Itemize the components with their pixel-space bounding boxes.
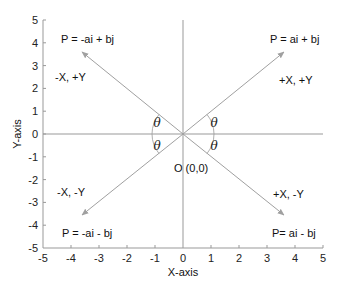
theta-label-q1: θ — [210, 116, 218, 130]
theta-label-q2: θ — [153, 116, 161, 130]
vector-q3 — [82, 134, 183, 215]
coordinate-diagram: 5 4 3 2 1 0 -1 -2 -3 -4 -5 -5 -4 -3 -2 -… — [0, 0, 344, 291]
y-tick-label: 0 — [32, 128, 38, 140]
y-tick-label: 5 — [32, 14, 38, 26]
x-tick-label: -1 — [150, 252, 160, 264]
theta-label-q4: θ — [210, 139, 218, 153]
y-axis-tick-labels: 5 4 3 2 1 0 -1 -2 -3 -4 -5 — [28, 14, 38, 254]
x-tick-label: 2 — [236, 252, 242, 264]
y-tick-label: -3 — [28, 196, 38, 208]
x-tick-label: -2 — [122, 252, 132, 264]
theta-label-q3: θ — [153, 139, 161, 153]
vector-q2 — [82, 52, 183, 134]
x-tick-label: -3 — [94, 252, 104, 264]
y-tick-label: -1 — [28, 151, 38, 163]
y-tick-label: -4 — [28, 219, 38, 231]
x-tick-label: -5 — [38, 252, 48, 264]
y-axis-title: Y-axis — [11, 119, 23, 149]
x-axis-title: X-axis — [168, 266, 199, 278]
vector-q4 — [183, 134, 284, 215]
y-tick-label: -2 — [28, 174, 38, 186]
quadrant-signs-q1: +X, +Y — [279, 74, 313, 86]
vector-q1 — [183, 52, 284, 134]
y-tick-label: -5 — [28, 242, 38, 254]
quadrant-signs-q3: -X, -Y — [57, 186, 86, 198]
quadrant-signs-q2: -X, +Y — [55, 71, 87, 83]
x-tick-label: -4 — [66, 252, 76, 264]
x-tick-label: 0 — [180, 252, 186, 264]
y-tick-label: 2 — [32, 82, 38, 94]
x-tick-label: 4 — [292, 252, 298, 264]
y-tick-label: 1 — [32, 105, 38, 117]
quadrant-signs-q4: +X, -Y — [273, 188, 305, 200]
origin-label: O (0,0) — [174, 162, 208, 174]
y-tick-label: 4 — [32, 37, 38, 49]
vector-label-q3: P = -ai - bj — [62, 227, 112, 239]
x-axis-tick-labels: -5 -4 -3 -2 -1 0 1 2 3 4 5 — [38, 252, 326, 264]
vector-label-q2: P = -ai + bj — [61, 33, 114, 45]
x-tick-label: 3 — [264, 252, 270, 264]
x-tick-label: 5 — [320, 252, 326, 264]
y-tick-label: 3 — [32, 60, 38, 72]
vector-label-q4: P= ai - bj — [272, 227, 316, 239]
vector-label-q1: P = ai + bj — [270, 33, 319, 45]
x-tick-label: 1 — [208, 252, 214, 264]
